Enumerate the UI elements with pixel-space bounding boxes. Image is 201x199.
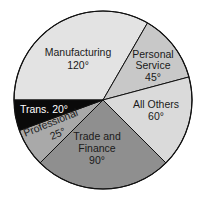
label-personal-2: Service	[135, 59, 170, 71]
label-trade-1: Trade and	[73, 130, 121, 142]
pie-chart: Manufacturing 120° Personal Service 45° …	[0, 0, 201, 199]
value-manufacturing: 120°	[67, 59, 89, 71]
label-others: All Others	[133, 98, 179, 110]
label-trans: Trans. 20°	[20, 103, 68, 115]
value-personal: 45°	[145, 71, 161, 83]
value-others: 60°	[148, 110, 164, 122]
value-trade: 90°	[89, 154, 105, 166]
label-manufacturing: Manufacturing	[45, 46, 112, 58]
label-trade-2: Finance	[78, 142, 116, 154]
